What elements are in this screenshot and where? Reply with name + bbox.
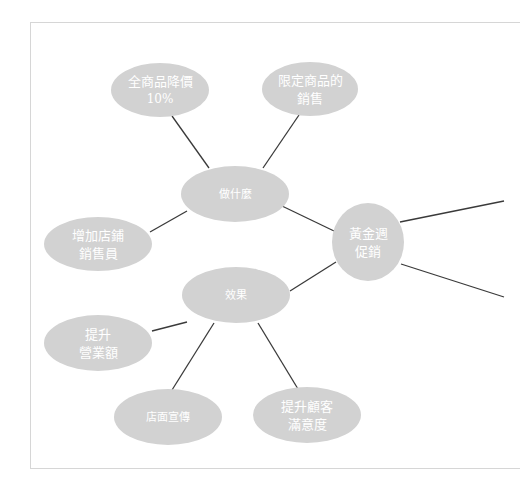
node-label: 促銷: [355, 244, 381, 259]
node-raise-revenue[interactable]: 提升營業額: [44, 315, 152, 371]
edges: [150, 115, 504, 390]
node-shape: [332, 203, 404, 281]
central-node-golden-week[interactable]: 黃金週促銷: [332, 203, 404, 281]
node-label: 做什麼: [219, 187, 252, 201]
node-shape: [44, 315, 152, 371]
edge-what-to-do-to-limited-items: [263, 115, 299, 168]
node-store-promo[interactable]: 店面宣傳: [114, 389, 222, 445]
node-label: 全商品降價: [128, 74, 193, 89]
node-what-to-do[interactable]: 做什麼: [181, 166, 289, 222]
node-label: 銷售員: [79, 246, 118, 261]
node-label: 銷售: [297, 91, 323, 106]
node-discount-all[interactable]: 全商品降價10%: [111, 63, 209, 117]
node-label: 提升顧客: [281, 399, 333, 414]
node-shape: [111, 63, 209, 117]
node-label: 限定商品的: [278, 73, 343, 88]
node-label: 10%: [147, 92, 174, 106]
node-add-staff[interactable]: 增加店鋪銷售員: [44, 217, 152, 271]
node-label: 增加店鋪: [72, 228, 124, 243]
edge-effects-to-raise-revenue: [152, 322, 187, 331]
node-label: 營業額: [79, 345, 118, 360]
node-label: 店面宣傳: [146, 410, 190, 424]
node-effects[interactable]: 效果: [182, 267, 290, 323]
edge-golden-week-to-what-to-do: [282, 206, 334, 231]
node-label: 滿意度: [288, 417, 327, 432]
nodes: 黃金週促銷做什麼效果全商品降價10%限定商品的銷售增加店鋪銷售員提升營業額店面宣…: [44, 62, 404, 445]
node-label: 黃金週: [349, 226, 388, 241]
node-shape: [262, 62, 358, 116]
edge-effects-to-store-promo: [172, 323, 214, 390]
edge-golden-week-to-effects: [290, 262, 336, 291]
node-label: 效果: [225, 288, 247, 302]
node-shape: [44, 217, 152, 271]
node-label: 提升: [85, 327, 111, 342]
edge-offscreen-branch-2: [401, 264, 504, 297]
node-limited-items[interactable]: 限定商品的銷售: [262, 62, 358, 116]
node-shape: [253, 387, 361, 443]
node-customer-satisfaction[interactable]: 提升顧客滿意度: [253, 387, 361, 443]
edge-what-to-do-to-discount-all: [172, 116, 209, 168]
edge-what-to-do-to-add-staff: [150, 211, 187, 232]
edge-effects-to-customer-satisfaction: [258, 323, 298, 389]
edge-offscreen-branch-1: [400, 201, 504, 222]
